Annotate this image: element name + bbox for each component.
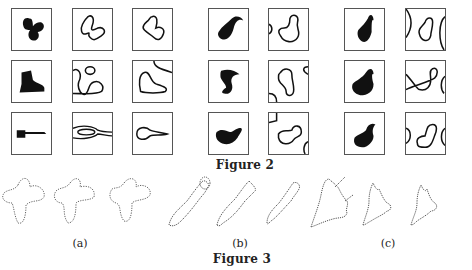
butterfly-contour-icon xyxy=(73,9,112,50)
guitar-contour-box xyxy=(72,112,113,155)
guitar-silhouette-box xyxy=(11,112,52,155)
swan-silhouette-icon xyxy=(209,9,248,50)
swan-silhouette-icon xyxy=(345,9,384,50)
boot-contour-box-2 xyxy=(132,60,173,103)
butterfly-icon xyxy=(12,9,51,50)
swan-silhouette-box-1 xyxy=(208,8,249,51)
guitar-contour-box-2 xyxy=(132,112,173,155)
swan-contour-icon xyxy=(406,9,445,50)
swan-silhouette-icon xyxy=(345,113,384,154)
figure-3a-contours xyxy=(0,175,160,230)
butterfly-contour-box-2 xyxy=(132,8,173,51)
butterfly-dotted-contours-icon xyxy=(0,175,160,230)
swan-contour-icon xyxy=(406,113,445,154)
swan-silhouette-box-3 xyxy=(208,112,249,155)
fish-dotted-contours-icon xyxy=(165,175,310,230)
guitar-icon xyxy=(12,113,51,154)
butterfly-contour-box xyxy=(72,8,113,51)
swan-silhouette-box-4 xyxy=(344,8,385,51)
swan-contour-icon xyxy=(406,61,445,102)
swan-contour-box-5 xyxy=(405,60,446,103)
figure-3b-label: (b) xyxy=(225,237,255,250)
swan-contour-box-4 xyxy=(405,8,446,51)
swan-contour-box-1 xyxy=(268,8,309,51)
jagged-dotted-contours-icon xyxy=(305,175,445,230)
butterfly-silhouette-box xyxy=(11,8,52,51)
swan-silhouette-box-5 xyxy=(344,60,385,103)
boot-contour-icon xyxy=(133,61,172,102)
swan-silhouette-box-6 xyxy=(344,112,385,155)
guitar-contour-icon xyxy=(133,113,172,154)
figure-2-caption: Figure 2 xyxy=(200,158,290,172)
figure-3a-label: (a) xyxy=(65,237,95,250)
swan-silhouette-icon xyxy=(209,113,248,154)
boot-contour-icon xyxy=(73,61,112,102)
swan-silhouette-box-2 xyxy=(208,60,249,103)
swan-contour-box-3 xyxy=(268,112,309,155)
swan-silhouette-icon xyxy=(345,61,384,102)
figure-3c-contours xyxy=(305,175,445,230)
figure-3c-label: (c) xyxy=(373,237,403,250)
swan-contour-icon xyxy=(269,9,308,50)
figure-3-caption: Figure 3 xyxy=(197,252,287,266)
boot-silhouette-box xyxy=(11,60,52,103)
butterfly-contour-icon xyxy=(133,9,172,50)
boot-contour-box xyxy=(72,60,113,103)
swan-silhouette-icon xyxy=(209,61,248,102)
boot-icon xyxy=(12,61,51,102)
swan-contour-icon xyxy=(269,61,308,102)
figure-3b-contours xyxy=(165,175,310,230)
guitar-contour-icon xyxy=(73,113,112,154)
swan-contour-box-6 xyxy=(405,112,446,155)
swan-contour-box-2 xyxy=(268,60,309,103)
swan-contour-icon xyxy=(269,113,308,154)
